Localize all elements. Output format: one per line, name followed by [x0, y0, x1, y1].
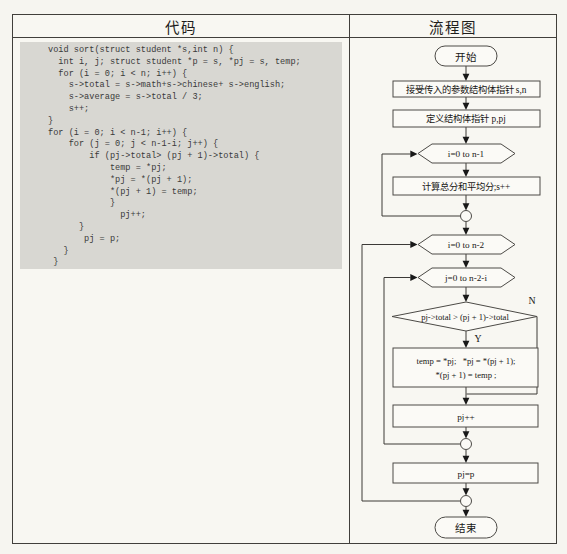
loopj-connector-circle — [461, 439, 472, 450]
arrowhead-down-icon — [463, 398, 470, 405]
arrowhead-down-icon — [463, 510, 470, 517]
flowchart-canvas: 开始 接受传入的参数结构体指针 s,n 定义结构体指针 p,pj i=0 to … — [0, 0, 567, 554]
arrowhead-down-icon — [463, 203, 470, 210]
swap-process — [393, 348, 538, 387]
compare-decision-label: pj->total > (pj + 1)->total — [421, 312, 509, 322]
loop1-label: i=0 to n-1 — [448, 149, 485, 159]
arrowhead-down-icon — [463, 456, 470, 463]
start-label: 开始 — [455, 51, 477, 63]
arrowhead-down-icon — [463, 295, 470, 302]
arrowhead-right-icon — [410, 274, 417, 281]
arrowhead-down-icon — [463, 170, 470, 177]
arrowhead-right-icon — [410, 241, 417, 248]
accept-params-label: 接受传入的参数结构体指针 s,n — [406, 84, 527, 95]
define-pointers-label: 定义结构体指针 p,pj — [426, 113, 506, 124]
arrowhead-down-icon — [463, 137, 470, 144]
arrowhead-down-icon — [463, 341, 470, 348]
no-branch-label: N — [528, 295, 535, 306]
arrowhead-down-icon — [463, 261, 470, 268]
swap-label-line1: temp = *pj; *pj = *(pj + 1); — [417, 356, 516, 366]
arrowhead-down-icon — [463, 103, 470, 110]
flow-connectors — [362, 66, 537, 513]
flow-arrowheads — [410, 74, 469, 517]
arrowhead-down-icon — [463, 228, 470, 235]
loop2-label: i=0 to n-2 — [448, 240, 485, 250]
end-label: 结束 — [455, 522, 477, 534]
arrowhead-down-icon — [463, 488, 470, 495]
loopj-label: j=0 to n-2-i — [444, 273, 487, 283]
arrowhead-down-icon — [463, 74, 470, 81]
arrowhead-down-icon — [463, 431, 470, 438]
yes-branch-label: Y — [474, 333, 481, 344]
arrowhead-right-icon — [410, 151, 417, 158]
increment-label: pj++ — [457, 412, 475, 422]
swap-label-line2: *(pj + 1) = temp ; — [435, 370, 496, 380]
loop2-connector-circle — [461, 496, 472, 507]
scanned-page: 代码 流程图 void sort(struct student *s,int n… — [0, 0, 567, 554]
reset-pointer-label: pj=p — [458, 469, 475, 479]
calc-total-label: 计算总分和平均分;s++ — [422, 181, 511, 192]
loop1-connector-circle — [461, 211, 472, 222]
